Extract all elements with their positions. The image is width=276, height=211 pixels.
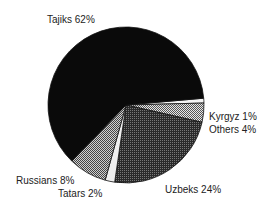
label-uzbeks: Uzbeks 24% (165, 184, 221, 195)
label-tatars: Tatars 2% (58, 188, 102, 199)
pie-slices (48, 27, 204, 183)
label-tajiks: Tajiks 62% (47, 14, 95, 25)
label-russians: Russians 8% (16, 175, 74, 186)
label-others: Others 4% (209, 124, 256, 135)
label-kyrgyz: Kyrgyz 1% (209, 111, 257, 122)
